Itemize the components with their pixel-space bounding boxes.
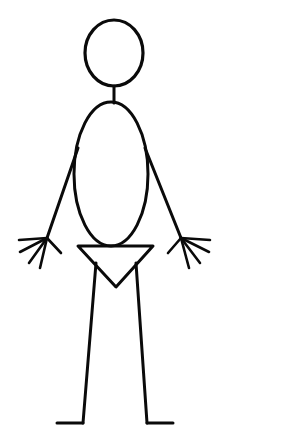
drawing-canvas [0, 0, 282, 434]
stick-figure-drawing [0, 0, 282, 434]
